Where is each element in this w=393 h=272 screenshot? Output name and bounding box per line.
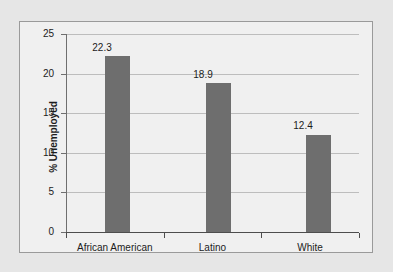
y-tick-mark-25 <box>61 34 66 35</box>
x-tick-label-latino: Latino <box>164 242 262 253</box>
bar-african-american <box>105 56 130 233</box>
x-tick-mark-3 <box>359 233 360 238</box>
y-axis-title: % Unemployed <box>46 42 60 232</box>
bar-latino <box>206 83 231 233</box>
x-tick-label-white: White <box>261 242 359 253</box>
bar-white <box>306 135 331 233</box>
bar-value-label-latino: 18.9 <box>185 70 221 80</box>
y-axis-line <box>66 34 67 233</box>
y-tick-mark-5 <box>61 192 66 193</box>
y-tick-mark-15 <box>61 113 66 114</box>
figure: 22.3 18.9 12.4 25 20 15 10 5 0 African A… <box>0 0 393 272</box>
y-tick-label-25: 25 <box>28 29 54 39</box>
chart-frame: 22.3 18.9 12.4 25 20 15 10 5 0 African A… <box>19 21 373 253</box>
x-tick-mark-0 <box>66 233 67 238</box>
y-tick-mark-20 <box>61 74 66 75</box>
x-tick-mark-2 <box>261 233 262 238</box>
x-tick-label-african-american: African American <box>66 242 164 253</box>
y-axis-title-text: % Unemployed <box>48 101 59 173</box>
bars-layer <box>66 34 359 233</box>
x-tick-mark-1 <box>164 233 165 238</box>
bar-value-label-african-american: 22.3 <box>84 43 120 53</box>
x-axis-line <box>66 232 359 233</box>
bar-value-label-white: 12.4 <box>285 121 321 131</box>
y-tick-mark-10 <box>61 153 66 154</box>
